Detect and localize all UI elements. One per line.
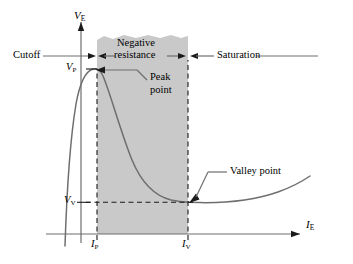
valley-point-label: Valley point: [230, 166, 281, 177]
negative-resistance-label-line1: Negative: [117, 38, 155, 49]
vp-tick-label: VP: [66, 62, 76, 73]
valley-point-arrowhead: [189, 194, 200, 204]
vv-tick-label: VV: [64, 195, 76, 206]
x-axis-label: IE: [306, 219, 314, 230]
ip-tick-label: IP: [91, 239, 98, 250]
peak-point-label-line2: point: [150, 85, 172, 96]
y-axis-label: VE: [74, 10, 85, 21]
figure-canvas: [0, 0, 353, 264]
iv-tick-label: IV: [182, 239, 191, 250]
peak-point-label-line1: Peak: [150, 72, 170, 83]
cutoff-right-arrowhead: [88, 53, 96, 59]
cutoff-region-label: Cutoff: [13, 50, 40, 61]
valley-point-leader-diagonal: [196, 172, 208, 197]
y-axis-arrowhead: [78, 22, 84, 31]
negative-resistance-label-line2: resistance: [114, 50, 155, 61]
x-axis-arrowhead: [291, 231, 300, 237]
negative-resistance-shading: [97, 35, 188, 234]
saturation-region-label: Saturation: [217, 50, 260, 61]
ujt-characteristic-figure: VE IE Cutoff Negative resistance Saturat…: [0, 0, 353, 264]
